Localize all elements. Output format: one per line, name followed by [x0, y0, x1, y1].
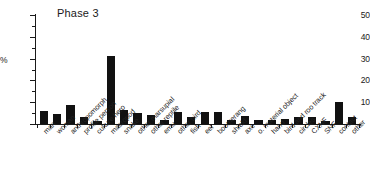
x-tick-label: eel [203, 123, 215, 135]
x-tick [37, 125, 38, 128]
chart-title: Phase 3 [57, 8, 99, 19]
chart-figure: Phase 3 % 1020304050 manwomananthropomor… [0, 0, 370, 183]
y-tick-major [30, 80, 36, 81]
y-tick-major [30, 15, 36, 16]
y-tick-label: 30 [344, 55, 370, 64]
y-tick-major [30, 102, 36, 103]
y-tick-major [30, 124, 36, 125]
y-tick-minor [32, 48, 36, 49]
y-tick-label: 40 [344, 33, 370, 42]
y-axis-title: % [0, 56, 8, 65]
y-tick-minor [32, 113, 36, 114]
y-tick-major [30, 59, 36, 60]
y-tick-minor [32, 26, 36, 27]
y-tick-major [30, 37, 36, 38]
y-tick-minor [32, 70, 36, 71]
y-tick-minor [32, 91, 36, 92]
bar [335, 102, 343, 124]
y-tick-label: 20 [344, 76, 370, 85]
y-tick-label: 10 [344, 98, 370, 107]
y-tick-label: 50 [344, 11, 370, 20]
